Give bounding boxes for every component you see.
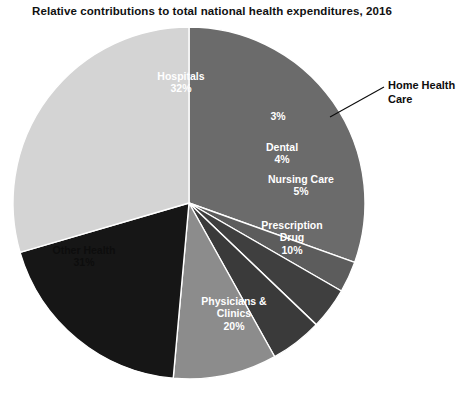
callout-label-home-health-care: Home Health Care	[388, 79, 455, 107]
pie-chart-figure: Relative contributions to total national…	[0, 0, 466, 394]
home-health-care-leader-line	[330, 87, 384, 117]
callout-line-2: Care	[388, 93, 455, 107]
pie-slice-group	[13, 27, 365, 379]
pie-chart-svg	[0, 0, 466, 394]
callout-line-1: Home Health	[388, 79, 455, 93]
